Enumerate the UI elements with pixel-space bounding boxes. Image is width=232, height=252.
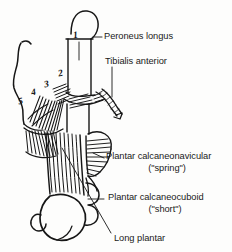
long-plantar-ligament-fibers <box>48 133 80 194</box>
cuboid-outline <box>85 183 99 225</box>
label-tibialis-anterior: Tibialis anterior <box>105 56 167 67</box>
label-plantar-calcaneocuboid: Plantar calcaneocuboid <box>108 192 204 203</box>
calcaneus-inner-detail <box>57 226 72 240</box>
label-plantar-calcaneonavicular: Plantar calcaneonavicular <box>106 151 211 162</box>
calcaneus-tuberosity <box>31 214 46 231</box>
label-plantar-calcaneocuboid-alt: ("short") <box>108 204 222 215</box>
tibialis-tendon-hatching <box>99 90 119 113</box>
calcaneus-outline <box>40 194 85 240</box>
tarsometatarsal-ligament-fan <box>30 96 64 131</box>
label-plantar-calcaneonavicular-alt: ("spring") <box>106 163 228 174</box>
first-metatarsal-shaft <box>66 39 93 95</box>
lateral-foot-border <box>13 41 31 124</box>
label-peroneus-longus: Peroneus longus <box>104 31 173 42</box>
label-long-plantar: Long plantar <box>114 233 165 244</box>
